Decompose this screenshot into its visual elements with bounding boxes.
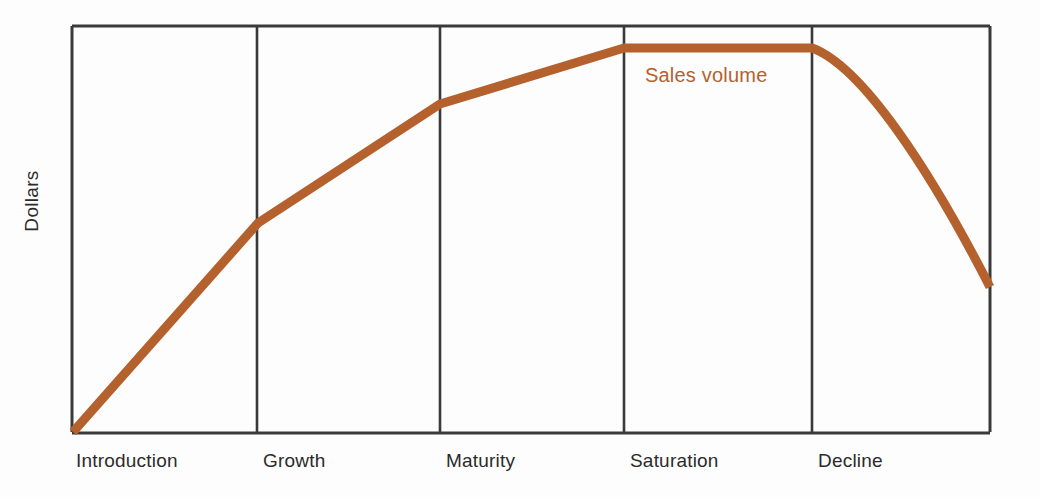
x-label-maturity: Maturity	[446, 450, 515, 472]
plot-frame	[72, 26, 990, 433]
y-axis-title: Dollars	[21, 151, 43, 251]
stage-dividers	[257, 27, 812, 432]
x-label-saturation: Saturation	[630, 450, 719, 472]
chart-figure: Dollars Sales volume Introduction Growth…	[0, 0, 1040, 497]
x-label-decline: Decline	[818, 450, 883, 472]
x-label-growth: Growth	[263, 450, 325, 472]
x-label-introduction: Introduction	[76, 450, 178, 472]
series-annotation-sales-volume: Sales volume	[645, 64, 767, 87]
chart-canvas	[0, 0, 1040, 497]
sales-volume-curve	[73, 48, 990, 432]
